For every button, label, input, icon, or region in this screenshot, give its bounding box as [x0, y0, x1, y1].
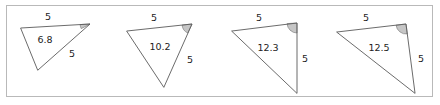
triangle-4-angle-marker [396, 24, 407, 34]
triangle-1: 5 6.8 5 [21, 11, 90, 71]
triangle-2-outline [127, 24, 192, 87]
triangle-2: 5 10.2 5 [127, 12, 193, 88]
triangle-4-top-side-label: 5 [363, 12, 369, 23]
triangle-2-top-side-label: 5 [151, 12, 157, 23]
figure-root: 5 6.8 5 5 10.2 5 5 12.3 5 5 12.5 5 [0, 0, 440, 105]
triangle-3-inner-label: 12.3 [257, 42, 278, 53]
triangle-2-inner-label: 10.2 [149, 41, 170, 52]
triangle-1-outline [21, 24, 90, 70]
triangle-3-angle-marker [287, 23, 297, 33]
triangle-4-right-side-label: 5 [418, 53, 424, 64]
triangle-3: 5 12.3 5 [232, 12, 308, 94]
triangle-4-inner-label: 12.5 [368, 42, 389, 53]
triangle-3-right-side-label: 5 [302, 53, 308, 64]
triangle-2-right-side-label: 5 [187, 54, 193, 65]
triangles-diagram: 5 6.8 5 5 10.2 5 5 12.3 5 5 12.5 5 [0, 0, 440, 105]
triangle-1-inner-label: 6.8 [37, 34, 52, 45]
triangle-4: 5 12.5 5 [337, 12, 424, 94]
triangle-1-top-side-label: 5 [45, 11, 51, 22]
triangle-3-top-side-label: 5 [256, 12, 262, 23]
triangle-1-right-side-label: 5 [69, 48, 75, 59]
triangle-4-outline [337, 24, 415, 93]
triangle-3-outline [232, 23, 297, 93]
